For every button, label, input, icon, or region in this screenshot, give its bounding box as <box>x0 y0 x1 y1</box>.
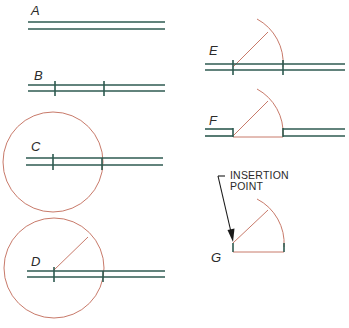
step-a-wall <box>28 22 165 29</box>
step-d-circle-radius <box>4 218 165 318</box>
step-label-d: D <box>31 255 40 268</box>
step-label-g: G <box>211 251 221 264</box>
step-label-f: F <box>209 114 217 127</box>
step-label-e: E <box>209 44 218 57</box>
step-b-wall <box>28 81 165 96</box>
step-label-c: C <box>31 140 40 153</box>
step-c-circle <box>3 112 163 212</box>
step-e-door-arc <box>205 19 345 75</box>
step-g-door-block <box>233 199 284 252</box>
insertion-point-label: INSERTION POINT <box>230 170 289 192</box>
step-label-a: A <box>31 4 40 17</box>
door-drawing-steps-diagram <box>0 0 349 328</box>
insertion-point-line2: POINT <box>230 181 289 192</box>
step-label-b: B <box>34 69 43 82</box>
step-f-opening-trimmed <box>205 89 345 137</box>
